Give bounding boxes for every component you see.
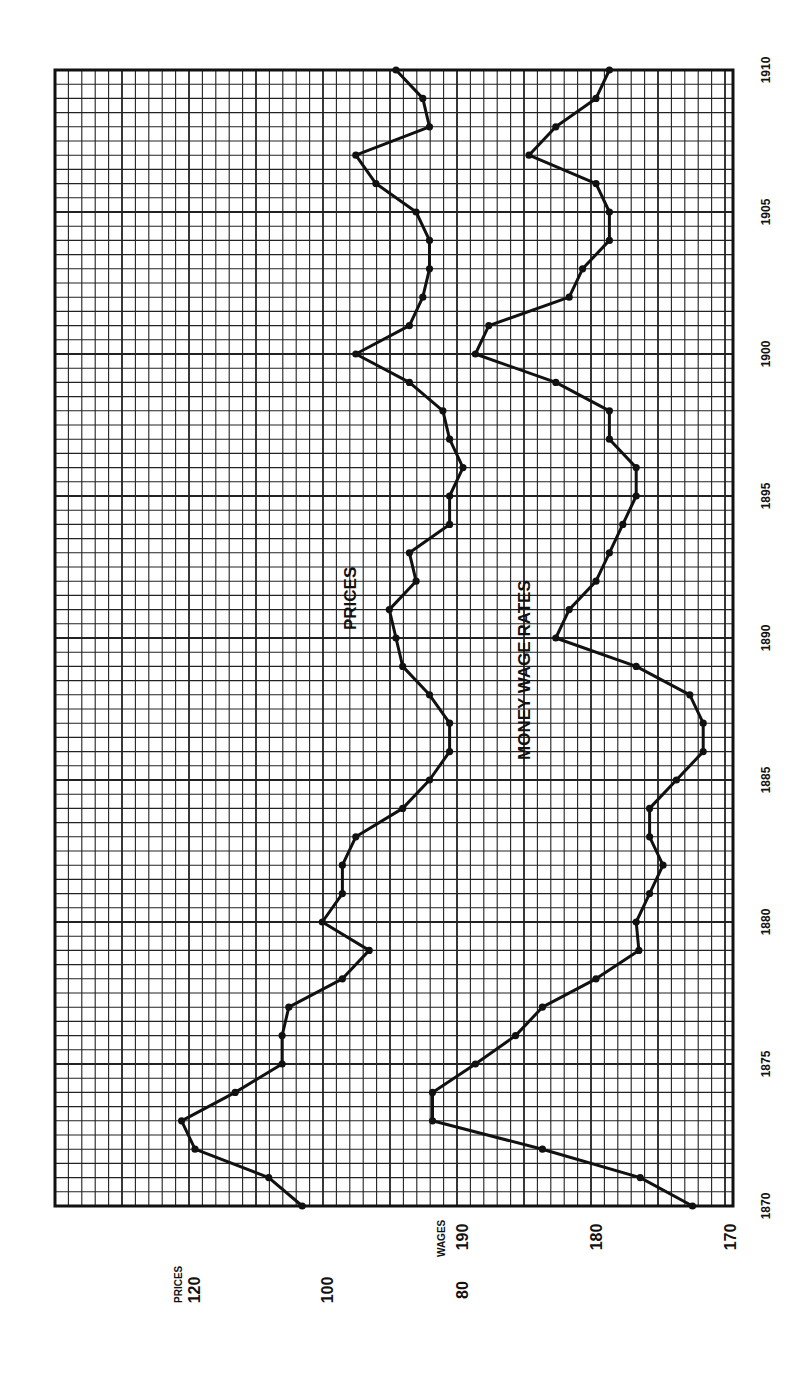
data-point-marker [646,805,653,812]
data-point-marker [646,833,653,840]
data-point-marker [426,237,433,244]
data-point-marker [619,521,626,528]
value-tick-label: 120 [186,1277,203,1304]
data-point-marker [191,1146,198,1153]
year-tick-label: 1885 [759,766,773,793]
year-tick-label: 1895 [759,482,773,509]
data-point-marker [472,350,479,357]
data-point-marker [552,123,559,130]
data-point-marker [592,180,599,187]
data-point-marker [700,748,707,755]
data-point-marker [352,833,359,840]
data-point-marker [633,663,640,670]
data-point-marker [372,180,379,187]
data-point-marker [592,95,599,102]
data-point-marker [446,521,453,528]
data-point-marker [539,1146,546,1153]
data-point-marker [426,123,433,130]
data-point-marker [319,918,326,925]
data-point-marker [439,407,446,414]
data-point-marker [178,1117,185,1124]
data-point-marker [512,1032,519,1039]
data-point-marker [637,1174,644,1181]
data-point-marker [635,947,642,954]
data-point-marker [566,606,573,613]
data-point-marker [459,464,466,471]
data-point-marker [700,720,707,727]
prices-series-label: PRICES [341,567,360,630]
data-point-marker [606,549,613,556]
data-point-marker [386,606,393,613]
data-point-marker [446,748,453,755]
data-point-marker [392,634,399,641]
data-point-marker [429,1089,436,1096]
data-point-marker [446,492,453,499]
data-point-marker [285,1004,292,1011]
data-point-marker [406,379,413,386]
value-tick-label: 100 [319,1277,336,1304]
data-point-marker [339,890,346,897]
data-point-marker [633,918,640,925]
data-point-marker [392,66,399,73]
year-tick-label: 1900 [759,340,773,367]
wages-series-label: MONEY WAGE RATES [515,580,534,760]
data-point-marker [419,294,426,301]
y-axis-value-labels: 12010080190180170 [186,1224,739,1304]
value-tick-label: 170 [722,1224,739,1251]
data-point-marker [426,691,433,698]
data-point-marker [399,805,406,812]
data-point-marker [592,578,599,585]
data-point-marker [413,208,420,215]
data-point-marker [633,464,640,471]
data-point-marker [552,379,559,386]
data-point-marker [633,492,640,499]
data-point-marker [352,350,359,357]
year-tick-label: 1870 [759,1192,773,1219]
data-point-marker [646,890,653,897]
wages-axis-title: WAGES [436,1219,447,1257]
data-point-marker [552,634,559,641]
year-tick-label: 1890 [759,624,773,651]
data-point-marker [606,407,613,414]
data-point-marker [352,152,359,159]
data-point-marker [659,862,666,869]
data-point-marker [406,322,413,329]
x-axis-year-labels: 187018751880188518901895190019051910 [759,56,773,1219]
data-point-marker [673,776,680,783]
data-point-marker [606,436,613,443]
data-point-marker [406,549,413,556]
data-point-marker [606,208,613,215]
data-point-marker [485,322,492,329]
value-tick-label: 180 [588,1224,605,1251]
value-tick-label: 190 [454,1224,471,1251]
data-point-marker [446,436,453,443]
data-point-marker [265,1174,272,1181]
data-point-marker [606,66,613,73]
data-point-marker [232,1089,239,1096]
data-point-marker [339,975,346,982]
year-tick-label: 1905 [759,198,773,225]
data-point-marker [299,1202,306,1209]
data-point-marker [339,862,346,869]
line-chart: 187018751880188518901895190019051910 120… [0,0,810,1375]
year-tick-label: 1880 [759,908,773,935]
data-point-marker [413,578,420,585]
data-point-marker [579,265,586,272]
data-point-marker [279,1032,286,1039]
data-point-marker [539,1004,546,1011]
data-point-marker [419,95,426,102]
data-point-marker [426,776,433,783]
data-point-marker [429,1117,436,1124]
data-point-marker [279,1060,286,1067]
year-tick-label: 1910 [759,56,773,83]
data-point-marker [689,1202,696,1209]
value-tick-label: 80 [454,1281,471,1299]
data-point-marker [606,237,613,244]
prices-axis-title: PRICES [173,1265,184,1303]
data-point-marker [366,947,373,954]
data-point-marker [525,152,532,159]
data-point-marker [472,1060,479,1067]
data-point-marker [686,691,693,698]
year-tick-label: 1875 [759,1050,773,1077]
data-point-marker [446,720,453,727]
